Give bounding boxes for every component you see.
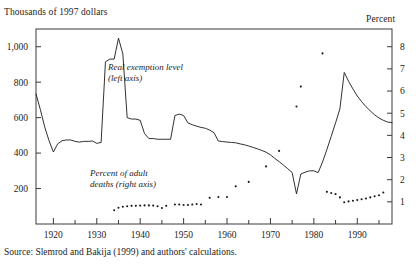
series-point-percent-of-adult-deaths xyxy=(165,205,167,207)
figure: Thousands of 1997 dollars Percent 200400… xyxy=(0,0,416,265)
series-point-percent-of-adult-deaths xyxy=(300,86,302,88)
series-point-percent-of-adult-deaths xyxy=(265,165,267,167)
series-point-percent-of-adult-deaths xyxy=(143,204,145,206)
annotation-percent-of-adult-deaths: Percent of adult deaths (right axis) xyxy=(90,168,156,190)
series-point-percent-of-adult-deaths xyxy=(174,203,176,205)
series-point-percent-of-adult-deaths xyxy=(126,205,128,207)
series-point-percent-of-adult-deaths xyxy=(330,192,332,194)
y-axis-tick-label-right: 8 xyxy=(400,42,405,52)
source-note: Source: Slemrod and Bakija (1999) and au… xyxy=(4,247,237,257)
x-axis-tick-label: 1950 xyxy=(174,230,193,240)
plot-frame xyxy=(36,29,392,224)
y-axis-tick-label-right: 2 xyxy=(400,175,405,185)
series-point-percent-of-adult-deaths xyxy=(183,204,185,206)
y-axis-tick-label-left: 800 xyxy=(14,78,29,88)
y-axis-tick-label-right: 6 xyxy=(400,86,405,96)
series-point-percent-of-adult-deaths xyxy=(139,205,141,207)
y-axis-tick-label-left: 200 xyxy=(14,184,29,194)
series-point-percent-of-adult-deaths xyxy=(335,193,337,195)
series-point-percent-of-adult-deaths xyxy=(209,197,211,199)
series-point-percent-of-adult-deaths xyxy=(235,185,237,187)
series-point-percent-of-adult-deaths xyxy=(343,201,345,203)
x-axis-tick-label: 1940 xyxy=(131,230,150,240)
series-point-percent-of-adult-deaths xyxy=(339,196,341,198)
y-axis-tick-label-left: 400 xyxy=(14,148,29,158)
series-point-percent-of-adult-deaths xyxy=(352,200,354,202)
y-axis-tick-label-right: 7 xyxy=(400,64,405,74)
y-axis-tick-label-left: 1,000 xyxy=(7,42,29,52)
series-point-percent-of-adult-deaths xyxy=(200,203,202,205)
series-point-percent-of-adult-deaths xyxy=(326,191,328,193)
x-axis-tick-label: 1960 xyxy=(218,230,237,240)
y-axis-tick-label-left: 600 xyxy=(14,113,29,123)
series-point-percent-of-adult-deaths xyxy=(226,196,228,198)
series-point-percent-of-adult-deaths xyxy=(382,191,384,193)
y-axis-tick-label-right: 3 xyxy=(400,153,405,163)
series-point-percent-of-adult-deaths xyxy=(348,200,350,202)
series-point-percent-of-adult-deaths xyxy=(196,203,198,205)
series-point-percent-of-adult-deaths xyxy=(191,203,193,205)
series-point-percent-of-adult-deaths xyxy=(278,150,280,152)
x-axis-tick-label: 1970 xyxy=(261,230,280,240)
x-axis-tick-label: 1980 xyxy=(304,230,323,240)
series-point-percent-of-adult-deaths xyxy=(187,204,189,206)
series-point-percent-of-adult-deaths xyxy=(148,204,150,206)
series-point-percent-of-adult-deaths xyxy=(113,209,115,211)
series-point-percent-of-adult-deaths xyxy=(178,203,180,205)
series-point-percent-of-adult-deaths xyxy=(248,181,250,183)
series-point-percent-of-adult-deaths xyxy=(117,207,119,209)
series-point-percent-of-adult-deaths xyxy=(361,198,363,200)
series-point-percent-of-adult-deaths xyxy=(321,52,323,54)
series-point-percent-of-adult-deaths xyxy=(152,205,154,207)
series-point-percent-of-adult-deaths xyxy=(378,194,380,196)
y-axis-tick-label-right: 5 xyxy=(400,109,405,119)
series-point-percent-of-adult-deaths xyxy=(369,196,371,198)
series-point-percent-of-adult-deaths xyxy=(217,196,219,198)
series-point-percent-of-adult-deaths xyxy=(157,205,159,207)
series-point-percent-of-adult-deaths xyxy=(295,106,297,108)
x-axis-tick-label: 1930 xyxy=(87,230,106,240)
chart-plot-area: 2004006008001,00012345678192019301940195… xyxy=(0,0,416,265)
series-point-percent-of-adult-deaths xyxy=(356,199,358,201)
series-point-percent-of-adult-deaths xyxy=(374,195,376,197)
series-point-percent-of-adult-deaths xyxy=(365,197,367,199)
x-axis-tick-label: 1990 xyxy=(348,230,367,240)
series-point-percent-of-adult-deaths xyxy=(122,206,124,208)
series-point-percent-of-adult-deaths xyxy=(130,205,132,207)
y-axis-tick-label-right: 4 xyxy=(400,131,405,141)
series-point-percent-of-adult-deaths xyxy=(135,205,137,207)
x-axis-tick-label: 1920 xyxy=(44,230,63,240)
series-point-percent-of-adult-deaths xyxy=(161,207,163,209)
annotation-real-exemption-level: Real exemption level (left axis) xyxy=(108,62,183,84)
y-axis-tick-label-right: 1 xyxy=(400,197,405,207)
